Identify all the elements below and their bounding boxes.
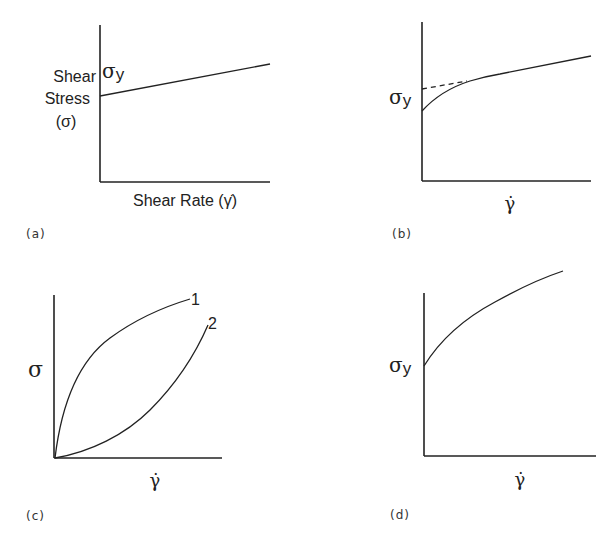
- panel-b: σy γ̇ (b): [389, 22, 591, 241]
- panel-a: σy Shear Stress (σ) Shear Rate (γ̇) (a): [26, 25, 270, 241]
- curve-2-label: 2: [208, 315, 217, 332]
- panel-label-d: (d): [390, 508, 410, 522]
- curve-1-shear-thinning: [55, 299, 190, 458]
- y-label-line3: (σ): [56, 113, 77, 130]
- herschel-bulkley-curve: [424, 271, 563, 366]
- flow-curve: [422, 56, 591, 111]
- y-label: σ: [28, 357, 43, 382]
- panel-c: 1 2 σ γ̇ (c): [26, 291, 222, 523]
- bingham-line: [100, 64, 270, 96]
- x-label: γ̇: [505, 193, 516, 214]
- rheology-figure: σy Shear Stress (σ) Shear Rate (γ̇) (a) …: [0, 0, 616, 548]
- panel-label-c: (c): [26, 509, 45, 523]
- panel-d: σy γ̇ (d): [389, 271, 596, 522]
- y-label-line1: Shear: [53, 68, 96, 85]
- panel-label-a: (a): [26, 227, 46, 241]
- curve-2-shear-thickening: [55, 325, 208, 458]
- x-label: γ̇: [150, 470, 161, 491]
- x-label: Shear Rate (γ̇): [133, 192, 237, 209]
- x-label: γ̇: [515, 469, 526, 490]
- yield-stress-label: σy: [389, 353, 412, 378]
- yield-stress-label: σy: [389, 85, 412, 110]
- curve-1-label: 1: [191, 291, 200, 308]
- yield-stress-label: σy: [102, 59, 125, 84]
- y-label-line2: Stress: [45, 90, 90, 107]
- panel-label-b: (b): [392, 227, 412, 241]
